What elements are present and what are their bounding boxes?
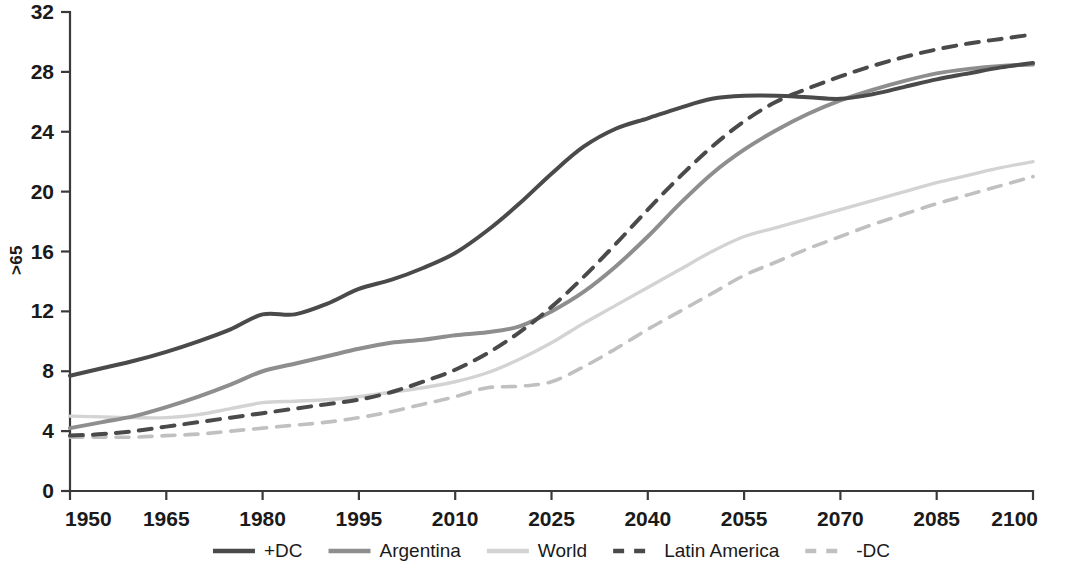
y-tick-label: 0 [42,479,54,502]
y-tick-label: 20 [31,180,54,203]
x-tick-label: 1950 [65,507,112,530]
x-axis: 1950196519801995201020252040205520702085… [65,491,1038,530]
legend-label-world: World [538,540,587,561]
legend-label-latin-america: Latin America [664,540,780,561]
y-axis-title-text: >65 [7,245,26,275]
legend-item-dc[interactable]: +DC [213,540,303,561]
series-line-latin-america [70,34,1033,435]
series-line-world [70,162,1033,418]
line-chart: 048121620242832 195019651980199520102025… [0,0,1066,573]
y-tick-label: 28 [31,60,55,83]
x-tick-label: 1995 [336,507,383,530]
x-tick-label: 2070 [817,507,864,530]
legend-label-dc: +DC [264,540,303,561]
y-axis-title: >65 [7,245,26,275]
y-tick-label: 24 [31,120,55,143]
legend-item-dc[interactable]: -DC [805,540,890,561]
x-tick-label: 1980 [239,507,286,530]
y-axis: 048121620242832 [31,0,70,502]
x-tick-label: 2100 [991,507,1038,530]
x-tick-label: 2040 [624,507,671,530]
y-tick-label: 32 [31,0,54,23]
x-tick-label: 2055 [721,507,768,530]
y-tick-label: 4 [42,419,54,442]
y-tick-label: 16 [31,240,54,263]
x-tick-label: 1965 [143,507,190,530]
legend-item-argentina[interactable]: Argentina [329,540,462,561]
series-line-argentina [70,64,1033,428]
legend-item-latin-america[interactable]: Latin America [613,540,780,561]
y-tick-label: 8 [42,359,54,382]
x-tick-label: 2025 [528,507,575,530]
chart-container: 048121620242832 195019651980199520102025… [0,0,1066,573]
x-tick-label: 2010 [432,507,479,530]
series-layer [70,34,1033,437]
legend-label-argentina: Argentina [380,540,462,561]
legend-item-world[interactable]: World [487,540,587,561]
chart-legend: +DCArgentinaWorldLatin America-DC [213,540,890,561]
x-tick-label: 2085 [913,507,960,530]
y-tick-label: 12 [31,299,54,322]
legend-label-dc: -DC [856,540,890,561]
